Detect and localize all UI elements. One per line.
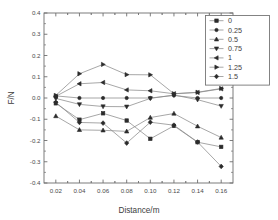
legend-label: 0.25: [228, 26, 242, 35]
chart-svg: -0.4-0.3-0.2-0.10.00.10.20.30.40.020.040…: [0, 0, 278, 220]
data-point-marker: [220, 96, 223, 99]
legend-label: 0.75: [228, 44, 242, 53]
y-tick-label: -0.1: [30, 115, 41, 122]
data-point-marker: [125, 96, 128, 99]
y-tick-label: 0.0: [32, 94, 41, 101]
legend-label: 1: [228, 53, 232, 62]
x-tick-label: 0.12: [168, 187, 181, 194]
legend-marker-icon: [215, 19, 218, 22]
x-axis-title: Distance/m: [119, 206, 160, 215]
data-point-marker: [219, 145, 222, 148]
data-point-marker: [125, 119, 128, 122]
x-tick-label: 0.08: [121, 187, 134, 194]
chart-legend[interactable]: 00.250.50.7511.251.5: [206, 16, 270, 86]
y-tick-label: 0.3: [32, 30, 41, 37]
x-tick-label: 0.02: [50, 187, 63, 194]
x-tick-label: 0.14: [192, 187, 205, 194]
legend-label: 0.5: [228, 35, 238, 44]
x-tick-label: 0.04: [73, 187, 86, 194]
legend-marker-icon: [215, 28, 218, 31]
x-tick-label: 0.06: [97, 187, 110, 194]
y-tick-label: -0.3: [30, 158, 41, 165]
x-tick-label: 0.16: [215, 187, 228, 194]
data-point-marker: [101, 112, 104, 115]
data-point-marker: [78, 96, 81, 99]
chart-figure: -0.4-0.3-0.2-0.10.00.10.20.30.40.020.040…: [0, 0, 278, 220]
y-tick-label: 0.2: [32, 52, 41, 59]
legend-label: 0: [228, 16, 232, 25]
y-tick-label: 0.1: [32, 73, 41, 80]
x-tick-label: 0.10: [144, 187, 157, 194]
legend-label: 1.5: [228, 72, 238, 81]
y-tick-label: -0.4: [30, 179, 41, 186]
legend-label: 1.25: [228, 63, 242, 72]
y-axis-title: F/N: [7, 91, 16, 104]
data-point-marker: [149, 137, 152, 140]
data-point-marker: [101, 96, 104, 99]
y-tick-label: 0.4: [32, 9, 41, 16]
y-tick-label: -0.2: [30, 137, 41, 144]
